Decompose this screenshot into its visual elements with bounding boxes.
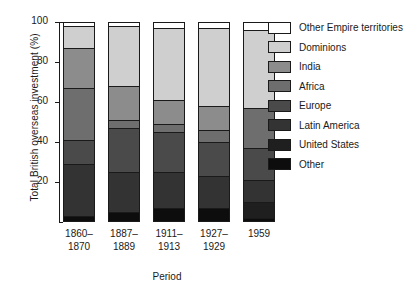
bar-segment[interactable] [63,26,95,48]
y-axis-tick-label: 20 [8,175,48,186]
legend-label: Other [299,159,324,170]
bar-segment[interactable] [243,202,275,218]
chart-legend: Other Empire territoriesDominionsIndiaAf… [268,18,418,174]
legend-swatch [268,61,291,73]
legend-item[interactable]: Africa [268,77,418,97]
legend-item[interactable]: India [268,57,418,77]
stacked-bar[interactable] [108,22,140,222]
y-axis-tick-label: 60 [8,95,48,106]
y-axis-tick-mark [55,22,60,23]
stacked-bar[interactable] [63,22,95,222]
bar-segment[interactable] [198,208,230,222]
y-axis-tick: 60 [0,102,59,103]
bar-segment[interactable] [108,128,140,172]
legend-item[interactable]: Other [268,155,418,175]
legend-item[interactable]: Latin America [268,116,418,136]
bar-segment[interactable] [63,216,95,222]
x-axis-title: Period [52,271,282,282]
legend-item[interactable]: Other Empire territories [268,18,418,38]
legend-item[interactable]: Europe [268,96,418,116]
y-axis-tick-label: 40 [8,135,48,146]
bar-segment[interactable] [108,120,140,128]
legend-swatch [268,100,291,112]
y-axis-tick: 100 [0,22,59,23]
y-axis-cap-bottom [59,222,63,223]
legend-swatch [268,80,291,92]
legend-label: Latin America [299,120,360,131]
y-axis-title: Total British overseas investment (%) [29,0,40,238]
y-axis-tick: 20 [0,182,59,183]
bar-segment[interactable] [198,142,230,176]
x-axis-tick-label: 1959 [231,227,287,240]
bar-segment[interactable] [153,100,185,124]
y-axis-tick-mark [55,102,60,103]
y-axis-tick-label: 100 [8,15,48,26]
stacked-bar[interactable] [153,22,185,222]
legend-label: Dominions [299,42,346,53]
legend-swatch [268,41,291,53]
bar-segment[interactable] [198,106,230,130]
stacked-bar-chart: Total British overseas investment (%) 20… [0,0,419,293]
bar-segment[interactable] [243,180,275,202]
legend-label: Europe [299,100,331,111]
bar-segment[interactable] [63,48,95,88]
legend-label: India [299,61,321,72]
y-axis-tick: 40 [0,142,59,143]
y-axis-tick-mark [55,182,60,183]
y-axis-tick-label: 80 [8,55,48,66]
bar-segment[interactable] [63,164,95,216]
legend-swatch [268,158,291,170]
bar-segment[interactable] [108,212,140,222]
y-axis-line [59,22,60,223]
legend-label: Africa [299,81,325,92]
bar-segment[interactable] [108,86,140,120]
bar-segment[interactable] [198,28,230,106]
legend-label: United States [299,139,359,150]
bar-segment[interactable] [198,130,230,142]
bar-segment[interactable] [153,28,185,100]
legend-swatch [268,22,291,34]
bar-segment[interactable] [153,208,185,222]
y-axis-tick-mark [55,142,60,143]
bar-segment[interactable] [153,132,185,172]
bar-segment[interactable] [153,124,185,132]
legend-swatch [268,139,291,151]
y-axis-tick: 80 [0,62,59,63]
bar-segment[interactable] [108,172,140,212]
legend-swatch [268,119,291,131]
bar-segment[interactable] [198,176,230,208]
bar-segment[interactable] [243,218,275,222]
bar-segment[interactable] [108,26,140,86]
x-axis-tick-label-line2: 1929 [186,240,242,253]
legend-label: Other Empire territories [299,22,403,33]
bar-segment[interactable] [63,88,95,140]
y-axis-tick-mark [55,62,60,63]
bar-segment[interactable] [153,172,185,208]
legend-item[interactable]: Dominions [268,38,418,58]
stacked-bar[interactable] [198,22,230,222]
bar-segment[interactable] [63,140,95,164]
legend-item[interactable]: United States [268,135,418,155]
x-axis-tick-label-line1: 1959 [231,227,287,240]
